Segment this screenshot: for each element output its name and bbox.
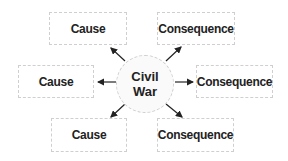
node-mid-left: Cause <box>18 65 94 98</box>
arrow-top-right <box>166 47 181 61</box>
node-label: Cause <box>71 22 106 36</box>
node-label: Consequence <box>158 22 233 36</box>
node-label: Cause <box>72 128 107 142</box>
center-label-line2: War <box>133 84 157 99</box>
node-label: Cause <box>39 75 74 89</box>
arrow-bottom-left <box>111 104 125 117</box>
center-label-line1: Civil <box>131 69 158 84</box>
arrow-bottom-right <box>166 104 182 117</box>
node-top-right: Consequence <box>157 12 235 45</box>
node-bottom-right: Consequence <box>157 118 234 152</box>
node-top-left: Cause <box>49 12 127 45</box>
node-mid-right: Consequence <box>196 65 273 98</box>
center-node: Civil War <box>116 55 174 113</box>
node-label: Consequence <box>158 128 233 142</box>
node-bottom-left: Cause <box>51 118 127 152</box>
node-label: Consequence <box>197 75 272 89</box>
arrow-top-left <box>111 48 125 61</box>
